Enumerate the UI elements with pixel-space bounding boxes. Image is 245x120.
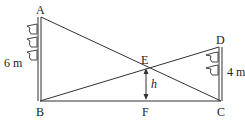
line-ac: [41, 17, 221, 101]
point-label-d: D: [216, 33, 225, 47]
point-label-f: F: [142, 105, 149, 119]
lamp-icon: [27, 50, 37, 60]
lamp-icon: [206, 52, 218, 62]
height-arrow-ef: [144, 68, 149, 100]
line-bd: [40, 47, 219, 101]
right-height-label: 4 m: [227, 65, 245, 79]
lamp-icon: [206, 65, 218, 75]
lamp-icon: [27, 37, 37, 47]
point-label-c: C: [217, 105, 225, 119]
height-h-label: h: [151, 77, 157, 91]
lamp-icon: [27, 24, 37, 34]
right-pole: [219, 47, 222, 101]
point-label-e: E: [141, 53, 148, 67]
geometry-diagram: A B C D E F 6 m 4 m h: [0, 0, 245, 120]
point-label-a: A: [36, 3, 45, 17]
left-height-label: 6 m: [4, 56, 23, 70]
left-pole: [38, 17, 41, 101]
point-label-b: B: [36, 105, 44, 119]
